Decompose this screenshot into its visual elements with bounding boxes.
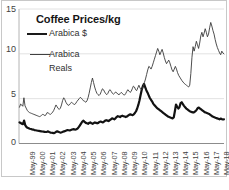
- coffee-prices-chart: 15 10 5 0 Coffee Prices/kg Arabica $ Ara…: [0, 0, 229, 190]
- page-title: Coffee Prices/kg: [36, 13, 121, 25]
- legend-swatch-arabica-usd: [27, 33, 47, 35]
- chart-series-lines: [20, 22, 225, 133]
- legend-label-arabica-usd: Arabica $: [49, 28, 87, 38]
- series-line-arabica-usd: [20, 84, 225, 133]
- chart-plot-area: [0, 0, 229, 190]
- legend-label-arabica-reals-line2: Reals: [49, 63, 72, 73]
- legend-swatch-arabica-reals: [30, 54, 50, 55]
- legend-label-arabica-reals-line1: Arabica: [49, 49, 80, 59]
